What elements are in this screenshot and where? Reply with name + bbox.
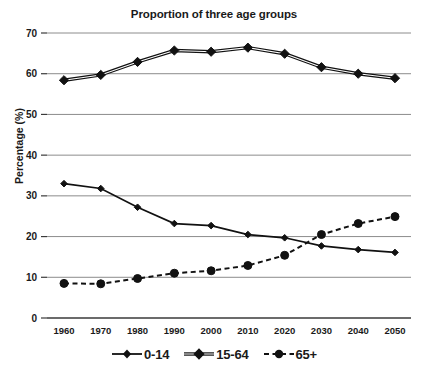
data-point-15-64 xyxy=(390,74,399,83)
data-point-15-64 xyxy=(96,70,105,79)
data-point-15-64 xyxy=(354,69,363,78)
data-point-0-14 xyxy=(134,204,141,211)
data-point-65-plus xyxy=(281,251,289,259)
x-tick-label: 2030 xyxy=(311,325,332,336)
data-point-65-plus xyxy=(60,279,68,287)
legend-swatch-15-64-icon xyxy=(183,346,215,362)
data-point-0-14 xyxy=(355,246,362,253)
legend-label-0-14: 0-14 xyxy=(144,347,169,362)
x-axis-ticks: 1960197019801990200020102020203020402050 xyxy=(53,325,405,336)
y-tick-label: 10 xyxy=(26,272,38,283)
data-point-65-plus xyxy=(244,261,252,269)
legend-label-65-plus: 65+ xyxy=(296,347,317,362)
y-tick-label: 70 xyxy=(26,28,38,39)
data-point-65-plus xyxy=(354,220,362,228)
data-point-65-plus xyxy=(207,267,215,275)
y-tick-label: 60 xyxy=(26,68,38,79)
data-point-0-14 xyxy=(61,180,68,187)
y-tick-label: 20 xyxy=(26,231,38,242)
data-point-15-64 xyxy=(207,47,216,56)
data-point-15-64 xyxy=(280,49,289,58)
data-point-65-plus xyxy=(134,275,142,283)
plot-area: 010203040506070 196019701980199020002010… xyxy=(0,0,428,380)
data-point-15-64 xyxy=(59,76,68,85)
x-tick-label: 1990 xyxy=(164,325,185,336)
series-line-inner-15-64 xyxy=(64,48,395,81)
data-point-0-14 xyxy=(171,220,178,227)
legend-swatch-65-plus-icon xyxy=(263,346,295,362)
legend-item-0-14[interactable]: 0-14 xyxy=(111,346,169,362)
chart-container: Proportion of three age groups Percentag… xyxy=(0,0,428,380)
data-point-0-14 xyxy=(97,185,104,192)
series-line-15-64 xyxy=(64,48,395,81)
legend-item-15-64[interactable]: 15-64 xyxy=(183,346,248,362)
series-line-65-plus xyxy=(64,217,395,284)
data-point-65-plus xyxy=(97,280,105,288)
data-point-15-64 xyxy=(133,57,142,66)
data-series xyxy=(59,43,399,288)
x-tick-label: 2000 xyxy=(201,325,222,336)
chart-legend: 0-14 15-64 65+ xyxy=(0,346,428,362)
y-tick-label: 40 xyxy=(26,150,38,161)
y-tick-label: 0 xyxy=(31,313,37,324)
x-tick-label: 1980 xyxy=(127,325,148,336)
legend-item-65-plus[interactable]: 65+ xyxy=(263,346,317,362)
data-point-65-plus xyxy=(317,231,325,239)
data-point-15-64 xyxy=(317,63,326,72)
data-point-15-64 xyxy=(243,43,252,52)
legend-label-15-64: 15-64 xyxy=(216,347,248,362)
data-point-65-plus xyxy=(170,269,178,277)
legend-swatch-0-14-icon xyxy=(111,346,143,362)
x-tick-label: 1970 xyxy=(90,325,111,336)
y-tick-label: 50 xyxy=(26,109,38,120)
data-point-0-14 xyxy=(392,249,399,256)
data-point-65-plus xyxy=(391,213,399,221)
x-tick-label: 2010 xyxy=(237,325,258,336)
y-axis-ticks: 010203040506070 xyxy=(26,28,47,324)
data-point-0-14 xyxy=(208,222,215,229)
data-point-0-14 xyxy=(281,234,288,241)
x-tick-label: 2050 xyxy=(384,325,405,336)
x-tick-label: 2040 xyxy=(348,325,369,336)
series-line-0-14 xyxy=(64,184,395,253)
y-tick-label: 30 xyxy=(26,190,38,201)
x-tick-label: 1960 xyxy=(53,325,74,336)
data-point-15-64 xyxy=(170,46,179,55)
data-point-0-14 xyxy=(318,243,325,250)
x-tick-label: 2020 xyxy=(274,325,295,336)
